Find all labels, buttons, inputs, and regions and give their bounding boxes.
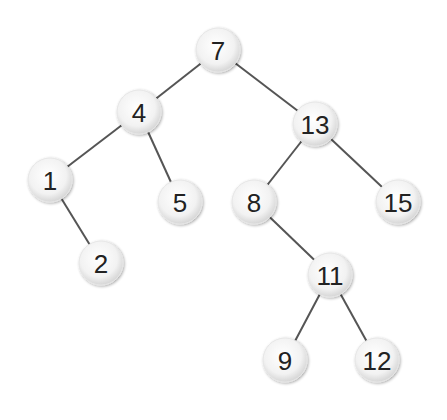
nodes-layer: 741315815211912 [28,28,420,382]
node-label: 2 [94,249,108,279]
node-label: 12 [363,346,392,376]
node-label: 8 [247,188,261,218]
tree-node-5: 5 [158,180,202,224]
node-label: 11 [317,261,344,291]
tree-node-13: 13 [293,102,337,146]
node-label: 9 [278,346,292,376]
tree-node-15: 15 [376,180,420,224]
node-label: 7 [211,36,225,66]
tree-node-9: 9 [263,338,307,382]
tree-node-1: 1 [28,158,72,202]
binary-tree-diagram: 741315815211912 [0,0,447,420]
tree-node-2: 2 [79,241,123,285]
node-label: 5 [173,188,187,218]
node-label: 1 [43,166,57,196]
node-label: 15 [384,188,413,218]
edges-layer [50,50,398,360]
tree-node-7: 7 [196,28,240,72]
node-label: 4 [132,98,146,128]
tree-node-4: 4 [117,90,161,134]
tree-node-11: 11 [308,253,352,297]
tree-node-8: 8 [232,180,276,224]
tree-node-12: 12 [355,338,399,382]
node-label: 13 [301,110,330,140]
